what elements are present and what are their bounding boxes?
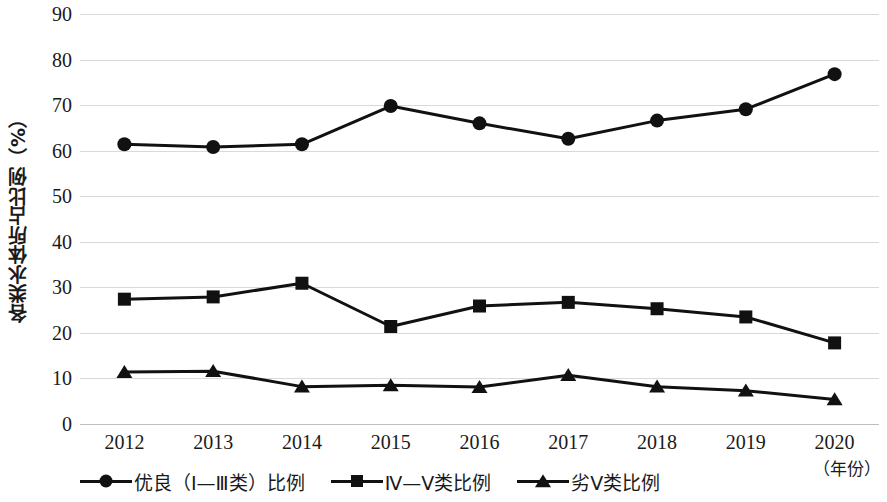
data-point-marker — [295, 277, 308, 290]
y-tick-label: 70 — [30, 95, 72, 115]
legend-item-label: 劣Ⅴ类比例 — [571, 468, 660, 495]
x-tick-label: 2012 — [104, 430, 144, 454]
x-tick-label: 2015 — [371, 430, 411, 454]
chart-legend: 优良（Ⅰ—Ⅲ类）比例Ⅳ—Ⅴ类比例劣Ⅴ类比例 — [80, 466, 780, 496]
data-point-marker — [828, 336, 841, 349]
y-tick-label: 60 — [30, 141, 72, 161]
data-point-marker — [739, 310, 752, 323]
data-point-marker — [206, 140, 220, 154]
y-tick-label: 90 — [30, 4, 72, 24]
y-tick-label: 10 — [30, 368, 72, 388]
x-tick-label: 2013 — [193, 430, 233, 454]
series-2 — [118, 277, 841, 350]
x-tick-label: 2017 — [548, 430, 588, 454]
legend-item[interactable]: 劣Ⅴ类比例 — [517, 468, 660, 495]
data-point-marker — [650, 114, 664, 128]
x-axis-title: （年份） — [813, 455, 881, 480]
series-line — [124, 74, 834, 147]
data-point-marker — [295, 137, 309, 151]
data-point-marker — [739, 102, 753, 116]
x-tick-label: 2020 — [815, 430, 855, 454]
square-marker — [331, 472, 383, 490]
data-point-marker — [118, 293, 131, 306]
plot-area — [80, 14, 879, 424]
data-point-marker — [562, 296, 575, 309]
y-tick-label: 30 — [30, 277, 72, 297]
data-point-marker — [384, 320, 397, 333]
x-tick-label: 2018 — [637, 430, 677, 454]
data-point-marker — [651, 302, 664, 315]
data-point-marker — [473, 300, 486, 313]
x-tick-label: 2016 — [460, 430, 500, 454]
legend-item-label: Ⅳ—Ⅴ类比例 — [385, 468, 492, 495]
x-tick-label: 2019 — [726, 430, 766, 454]
gridline-0 — [80, 424, 879, 425]
legend-item[interactable]: 优良（Ⅰ—Ⅲ类）比例 — [80, 468, 305, 495]
series-layer — [80, 14, 879, 424]
data-point-marker — [561, 132, 575, 146]
legend-item-label: 优良（Ⅰ—Ⅲ类）比例 — [134, 468, 305, 495]
y-axis-tick-labels: 9080706050403020100 — [24, 14, 72, 424]
data-point-marker — [473, 116, 487, 130]
x-axis-tick-labels: 201220132014201520162017201820192020 — [80, 430, 879, 458]
data-point-marker — [384, 99, 398, 113]
line-chart: 各类水体所占比例（%） 9080706050403020100 20122013… — [0, 0, 887, 502]
data-point-marker — [117, 137, 131, 151]
x-tick-label: 2014 — [282, 430, 322, 454]
series-1 — [117, 67, 841, 154]
y-tick-label: 0 — [30, 414, 72, 434]
series-line — [124, 283, 834, 343]
series-3 — [116, 364, 842, 405]
y-tick-label: 40 — [30, 232, 72, 252]
y-tick-label: 50 — [30, 186, 72, 206]
data-point-marker — [828, 67, 842, 81]
circle-marker — [80, 472, 132, 490]
legend-item[interactable]: Ⅳ—Ⅴ类比例 — [331, 468, 492, 495]
y-tick-label: 20 — [30, 323, 72, 343]
y-tick-label: 80 — [30, 50, 72, 70]
data-point-marker — [207, 290, 220, 303]
triangle-marker — [517, 472, 569, 490]
